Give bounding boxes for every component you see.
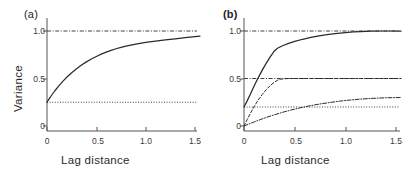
panel-b-curves [244,31,401,126]
panel-a-curves [47,31,200,102]
panel-b-ytick-0.5: 0.5 [225,74,241,84]
variogram-figure: (a) Variance Lag distance 1.0 0.5 0 0 0.… [0,0,406,175]
panel-b-xtick-0: 0 [237,136,251,146]
panel-b-tick-marks [240,31,396,131]
variogram-curve [47,36,200,102]
variogram-curve [244,98,401,127]
panel-a-ytick-0.5: 0.5 [29,74,45,84]
panel-b-ytick-1.0: 1.0 [225,26,241,36]
panel-b-x-axis-title: Lag distance [261,154,330,166]
panel-a-xtick-0.5: 0.5 [91,136,105,146]
panel-b-ytick-0: 0 [225,121,241,131]
panel-a: (a) Variance Lag distance 1.0 0.5 0 0 0.… [0,0,203,175]
panel-a-ytick-1.0: 1.0 [29,26,45,36]
variogram-curve [244,79,401,127]
panel-a-tick-marks [43,31,195,131]
panel-a-xtick-0: 0 [40,136,54,146]
panel-b: (b) Lag distance 1.0 0.5 0 0 0.5 1.0 1.5 [203,0,406,175]
panel-b-xtick-0.5: 0.5 [289,136,303,146]
panel-a-xtick-1.5: 1.5 [188,136,202,146]
panel-a-y-axis-title: Variance [12,65,24,112]
panel-b-xtick-1.5: 1.5 [389,136,403,146]
panel-a-ytick-0: 0 [29,121,45,131]
panel-a-x-axis-title: Lag distance [61,154,130,166]
panel-a-xtick-1.0: 1.0 [139,136,153,146]
variogram-curve [244,31,401,107]
panel-b-label: (b) [223,8,238,20]
panel-b-xtick-1.0: 1.0 [339,136,353,146]
panel-a-label: (a) [24,8,38,20]
